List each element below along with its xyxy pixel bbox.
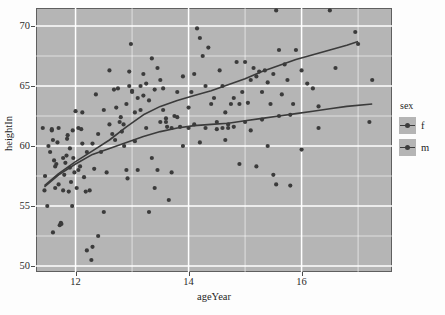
legend-item-label: m xyxy=(421,142,429,153)
smooth-line-m xyxy=(44,42,358,186)
plot-canvas xyxy=(36,8,392,272)
y-tick-label-50: 50 xyxy=(4,261,30,271)
y-tick-mark-60 xyxy=(31,146,35,147)
scatter-plot-figure: 5055606570 heightIn ageYear sex fm 12141… xyxy=(0,0,445,315)
legend-items: fm xyxy=(399,117,445,156)
legend-key-point-icon xyxy=(405,145,410,150)
y-tick-mark-70 xyxy=(31,26,35,27)
legend-title: sex xyxy=(399,100,445,111)
legend-key-point-icon xyxy=(405,123,410,128)
series-points-m xyxy=(50,8,360,168)
legend-key-f xyxy=(399,117,416,134)
legend-item-label: f xyxy=(421,120,425,131)
legend-item-m[interactable]: m xyxy=(399,139,445,156)
legend-item-f[interactable]: f xyxy=(399,117,445,134)
y-tick-mark-65 xyxy=(31,86,35,87)
y-axis-title: heightIn xyxy=(3,104,14,164)
plot-panel xyxy=(36,8,392,272)
legend-key-m xyxy=(399,139,416,156)
x-tick-label-12: 12 xyxy=(56,276,96,287)
x-tick-label-14: 14 xyxy=(169,276,209,287)
x-axis-title: ageYear xyxy=(36,291,392,302)
y-tick-label-65: 65 xyxy=(4,81,30,91)
x-tick-mark-14 xyxy=(189,272,190,276)
y-tick-label-55: 55 xyxy=(4,201,30,211)
legend: sex fm xyxy=(399,100,445,161)
x-tick-label-16: 16 xyxy=(282,276,322,287)
x-tick-mark-12 xyxy=(76,272,77,276)
x-tick-mark-16 xyxy=(302,272,303,276)
y-tick-label-70: 70 xyxy=(4,21,30,31)
y-tick-mark-55 xyxy=(31,206,35,207)
y-tick-mark-50 xyxy=(31,266,35,267)
